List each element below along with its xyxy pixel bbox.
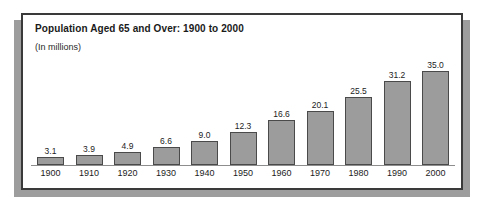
bar-group: 35.0 [422,59,449,165]
bar-group: 3.1 [37,59,64,165]
bar-value-label: 20.1 [312,101,329,110]
x-tick-label: 1960 [268,168,295,178]
bar-value-label: 6.6 [160,137,172,146]
x-tick-label: 1930 [153,168,180,178]
bar-value-label: 35.0 [427,61,444,70]
bar-group: 12.3 [230,59,257,165]
x-tick-label: 1970 [307,168,334,178]
plot-area: 3.13.94.96.69.012.316.620.125.531.235.0 [31,59,455,165]
bar-series: 3.13.94.96.69.012.316.620.125.531.235.0 [31,59,455,165]
bar-group: 9.0 [191,59,218,165]
bar-rect [153,147,180,165]
bar-rect [230,132,257,165]
bar-value-label: 4.9 [122,142,134,151]
bar-value-label: 9.0 [199,131,211,140]
x-axis-baseline [31,165,455,166]
x-tick-label: 1900 [37,168,64,178]
bar-rect [37,157,64,165]
bar-group: 6.6 [153,59,180,165]
bar-rect [268,120,295,165]
chart-panel: Population Aged 65 and Over: 1900 to 200… [21,13,463,190]
bar-value-label: 31.2 [389,71,406,80]
bar-value-label: 3.9 [83,145,95,154]
bar-rect [345,97,372,165]
bar-group: 31.2 [384,59,411,165]
bar-rect [422,71,449,165]
x-tick-label: 1940 [191,168,218,178]
bar-value-label: 25.5 [350,87,367,96]
bar-group: 25.5 [345,59,372,165]
bar-group: 4.9 [114,59,141,165]
x-tick-label: 1920 [114,168,141,178]
x-tick-label: 1990 [384,168,411,178]
x-tick-label: 1980 [345,168,372,178]
x-tick-label: 1950 [230,168,257,178]
x-tick-label: 2000 [422,168,449,178]
bar-group: 16.6 [268,59,295,165]
bar-rect [76,155,103,165]
bar-rect [384,81,411,165]
bar-value-label: 3.1 [45,147,57,156]
chart-subtitle-units: (In millions) [35,42,81,52]
bar-rect [114,152,141,165]
bar-group: 3.9 [76,59,103,165]
x-tick-label: 1910 [76,168,103,178]
bar-rect [307,111,334,165]
bar-value-label: 16.6 [273,110,290,119]
chart-title: Population Aged 65 and Over: 1900 to 200… [35,23,244,34]
bar-value-label: 12.3 [235,122,252,131]
bar-group: 20.1 [307,59,334,165]
bar-rect [191,141,218,165]
x-axis-tick-labels: 1900191019201930194019501960197019801990… [31,168,455,178]
